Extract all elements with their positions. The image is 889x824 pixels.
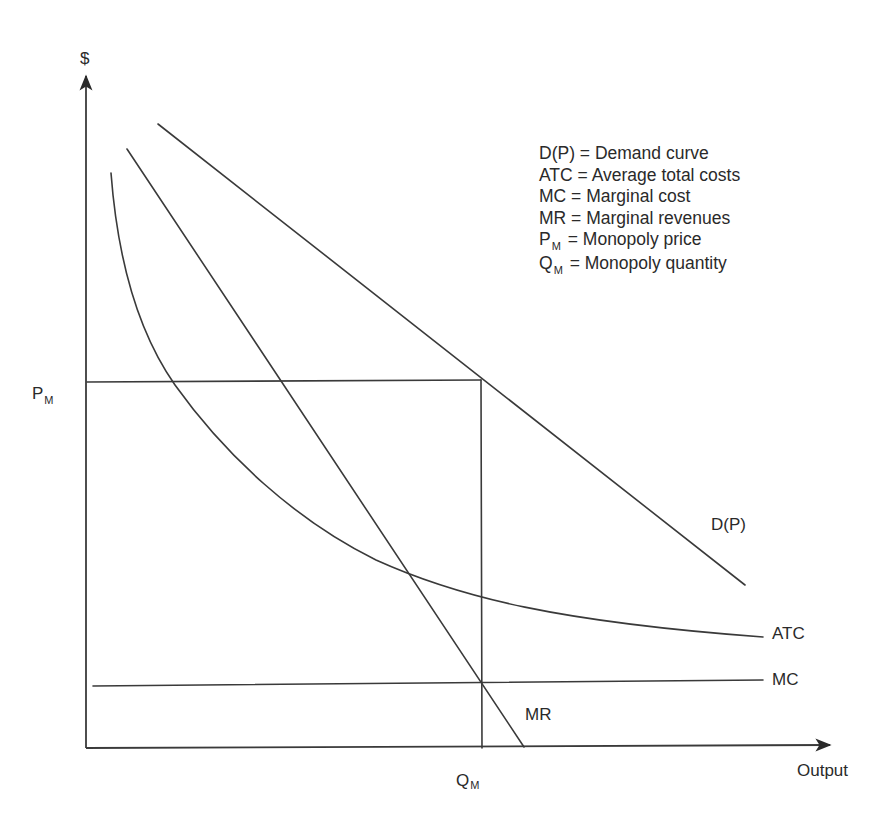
marginal-cost-curve — [93, 680, 763, 686]
monopoly-quantity-line — [481, 380, 482, 748]
legend-item-mr: MR = Marginal revenues — [539, 208, 740, 230]
legend-item-mc: MC = Marginal cost — [539, 186, 740, 208]
mc-curve-label: MC — [772, 670, 798, 689]
monopoly-quantity-symbol: Q — [456, 771, 469, 790]
marginal-revenue-curve — [127, 149, 524, 747]
x-axis — [86, 745, 830, 748]
legend-text: = Marginal revenues — [571, 208, 730, 228]
legend-symbol: MC — [539, 186, 566, 206]
legend-item-monopoly-quantity: QM = Monopoly quantity — [539, 253, 740, 277]
atc-curve-label: ATC — [772, 624, 805, 643]
x-axis-label: Output — [797, 761, 848, 780]
legend-symbol: MR — [539, 208, 566, 228]
legend-subscript: M — [554, 264, 563, 276]
legend-symbol: ATC — [539, 165, 573, 185]
monopoly-quantity-subscript: M — [470, 779, 479, 791]
legend-symbol: Q — [539, 253, 553, 273]
monopoly-price-symbol: P — [32, 384, 43, 403]
legend-item-atc: ATC = Average total costs — [539, 165, 740, 187]
monopoly-quantity-label: QM — [456, 771, 479, 791]
legend-text: = Monopoly price — [568, 229, 702, 249]
monopoly-price-line — [87, 380, 481, 382]
mr-curve-label: MR — [525, 705, 551, 724]
legend-item-demand: D(P) = Demand curve — [539, 143, 740, 165]
monopoly-price-subscript: M — [44, 394, 53, 406]
legend-subscript: M — [552, 240, 561, 252]
monopoly-diagram: $ Output D(P) ATC MC MR PM QM — [0, 0, 889, 824]
demand-curve-label: D(P) — [711, 515, 746, 534]
legend: D(P) = Demand curve ATC = Average total … — [539, 143, 740, 276]
legend-text: = Marginal cost — [571, 186, 690, 206]
legend-item-monopoly-price: PM = Monopoly price — [539, 229, 740, 253]
y-axis-label: $ — [80, 49, 90, 68]
legend-symbol: P — [539, 229, 551, 249]
monopoly-price-label: PM — [32, 384, 54, 406]
legend-symbol: D(P) — [539, 143, 575, 163]
legend-text: = Monopoly quantity — [570, 253, 727, 273]
legend-text: = Demand curve — [580, 143, 709, 163]
legend-text: = Average total costs — [578, 165, 741, 185]
